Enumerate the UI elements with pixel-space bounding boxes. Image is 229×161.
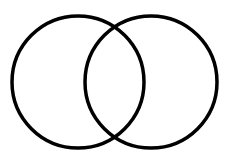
left-circle: [12, 16, 144, 148]
right-circle: [85, 16, 217, 148]
venn-diagram: [0, 0, 229, 161]
